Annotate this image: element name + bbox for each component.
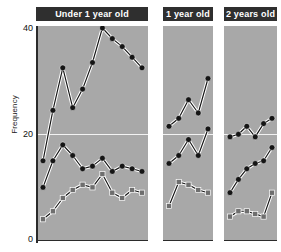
- data-point-circle: [186, 97, 192, 103]
- y-tick-0: 0: [5, 235, 33, 244]
- data-point-square: [269, 190, 274, 195]
- data-point-square: [80, 182, 85, 187]
- y-axis: Frequency 40 20 0: [0, 0, 33, 252]
- panel-2-years-old: 2 years old: [224, 0, 277, 252]
- series-line-halo: [230, 148, 272, 193]
- series-line-middle: [169, 129, 208, 164]
- panel-header-under-1-year-old: Under 1 year old: [36, 7, 148, 21]
- data-point-square: [110, 190, 115, 195]
- plot-axis-bottom: [163, 240, 213, 242]
- data-point-square: [60, 195, 65, 200]
- data-point-circle: [60, 142, 66, 148]
- data-point-circle: [236, 177, 242, 183]
- series-layer-1-year-old: [163, 26, 213, 241]
- panel-1-year-old: 1 year old: [163, 0, 213, 252]
- panel-header-2-years-old: 2 years old: [224, 7, 277, 21]
- data-point-circle: [80, 166, 86, 172]
- data-point-circle: [60, 65, 66, 71]
- series-layer-2-years-old: [224, 26, 277, 241]
- data-point-circle: [244, 166, 250, 172]
- data-point-circle: [70, 153, 76, 159]
- data-point-square: [120, 195, 125, 200]
- data-point-square: [139, 190, 144, 195]
- data-point-circle: [269, 145, 275, 151]
- data-point-circle: [227, 190, 233, 196]
- data-point-circle: [90, 60, 96, 66]
- data-point-circle: [109, 169, 115, 175]
- data-point-circle: [176, 115, 182, 121]
- data-point-circle: [269, 115, 275, 121]
- series-line-middle: [230, 148, 272, 193]
- data-point-square: [130, 187, 135, 192]
- data-point-circle: [186, 137, 192, 143]
- data-point-square: [50, 209, 55, 214]
- y-axis-title: Frequency: [10, 75, 19, 155]
- data-point-square: [40, 217, 45, 222]
- plot-axis-bottom: [36, 240, 148, 242]
- data-point-circle: [119, 44, 125, 50]
- data-point-square: [253, 211, 258, 216]
- y-axis-spine: [36, 26, 38, 243]
- data-point-circle: [236, 131, 242, 137]
- data-point-circle: [261, 158, 267, 164]
- data-point-circle: [166, 161, 172, 167]
- data-point-circle: [252, 134, 258, 140]
- plot-area-2-years-old: [224, 26, 277, 241]
- series-line-halo: [43, 174, 142, 219]
- data-point-circle: [109, 36, 115, 42]
- data-point-square: [100, 171, 105, 176]
- data-point-circle: [80, 86, 86, 92]
- data-point-square: [186, 182, 191, 187]
- data-point-circle: [40, 184, 46, 190]
- data-point-circle: [205, 76, 211, 82]
- data-point-circle: [100, 155, 106, 161]
- y-tick-20: 20: [5, 130, 33, 139]
- data-point-circle: [70, 105, 76, 111]
- y-tick-40: 40: [5, 24, 33, 33]
- data-point-square: [244, 209, 249, 214]
- plot-area-1-year-old: [163, 26, 213, 241]
- data-point-circle: [166, 123, 172, 129]
- data-point-circle: [261, 121, 267, 127]
- data-point-square: [70, 187, 75, 192]
- data-point-circle: [50, 107, 56, 113]
- data-point-circle: [205, 126, 211, 132]
- data-point-square: [236, 209, 241, 214]
- data-point-circle: [129, 54, 135, 60]
- data-point-circle: [119, 163, 125, 169]
- data-point-circle: [227, 134, 233, 140]
- data-point-circle: [139, 65, 145, 71]
- data-point-circle: [244, 123, 250, 129]
- data-point-circle: [176, 153, 182, 159]
- panel-under-1-year-old: Under 1 year old: [36, 0, 148, 252]
- data-point-square: [196, 187, 201, 192]
- series-line-lower: [43, 174, 142, 219]
- data-point-circle: [195, 153, 201, 159]
- data-point-circle: [100, 26, 106, 31]
- data-point-square: [205, 190, 210, 195]
- series-line-halo: [43, 28, 142, 161]
- series-layer-under-1-year-old: [36, 26, 148, 241]
- data-point-circle: [50, 158, 56, 164]
- data-point-square: [261, 214, 266, 219]
- data-point-circle: [139, 169, 145, 175]
- data-point-circle: [252, 161, 258, 167]
- panel-header-1-year-old: 1 year old: [163, 7, 213, 21]
- data-point-square: [176, 179, 181, 184]
- chart-figure: Frequency 40 20 0 Under 1 year old 1 yea…: [0, 0, 281, 252]
- data-point-square: [90, 185, 95, 190]
- data-point-square: [227, 214, 232, 219]
- plot-area-under-1-year-old: [36, 26, 148, 241]
- plot-axis-bottom: [224, 240, 277, 242]
- data-point-circle: [195, 110, 201, 116]
- data-point-circle: [129, 166, 135, 172]
- data-point-square: [166, 203, 171, 208]
- data-point-circle: [90, 163, 96, 169]
- data-point-circle: [40, 158, 46, 164]
